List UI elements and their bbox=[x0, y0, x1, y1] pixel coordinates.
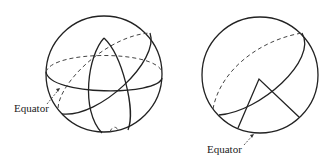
right-arrow-head-icon bbox=[250, 134, 254, 138]
left-equator-front bbox=[46, 72, 162, 91]
left-tilted-circle-back bbox=[58, 33, 150, 108]
left-tilted-circle-front bbox=[62, 33, 151, 114]
left-equator-label: Equator bbox=[14, 102, 49, 114]
left-lune-right-edge bbox=[104, 38, 130, 130]
left-arrow-head-icon bbox=[56, 88, 60, 92]
diagram-canvas: Equator Equator bbox=[0, 0, 329, 164]
right-spherical-triangle bbox=[238, 79, 299, 128]
left-sphere: Equator bbox=[14, 16, 162, 133]
right-tilted-circle-front bbox=[219, 33, 305, 115]
right-tilted-circle-back bbox=[213, 33, 302, 109]
right-sphere: Equator bbox=[202, 17, 318, 155]
left-equator-back bbox=[46, 56, 162, 73]
right-equator-label: Equator bbox=[207, 143, 242, 155]
